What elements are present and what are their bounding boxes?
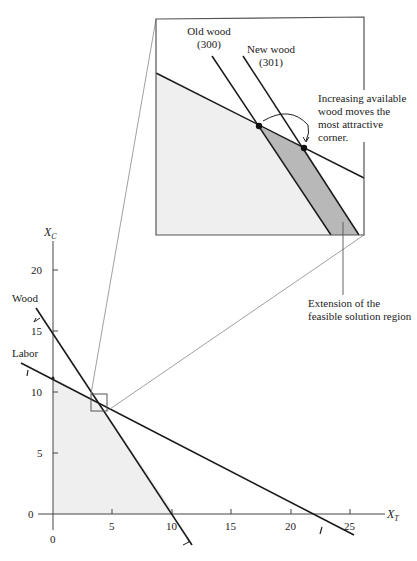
wood-label: Wood: [12, 292, 39, 304]
labor-direction-arrow-icon: [27, 370, 28, 376]
new-wood-value: (301): [259, 56, 283, 69]
x-tick-0: 0: [50, 533, 56, 545]
increase-annotation-line4: corner.: [318, 131, 348, 143]
wood-end-arrow-icon: [183, 538, 189, 545]
y-tick-0: 0: [28, 508, 34, 520]
extension-annotation-line1: Extension of the: [308, 297, 380, 309]
x-tick-15: 15: [225, 520, 237, 532]
wood-direction-arrow-icon: [34, 318, 40, 322]
old-corner-dot: [256, 123, 262, 129]
y-tick-20: 20: [31, 264, 43, 276]
new-corner-dot: [301, 145, 307, 151]
extension-annotation-line2: feasible solution region: [308, 310, 412, 322]
y-tick-10: 10: [31, 386, 43, 398]
x-tick-5: 5: [109, 520, 115, 532]
lp-graph: 0 5 10 15 20 0 5 10 15 20 25 XC XT Wood …: [0, 0, 417, 561]
y-tick-15: 15: [31, 325, 43, 337]
increase-annotation-line3: most attractive: [318, 118, 383, 130]
labor-end-arrow-icon: [320, 527, 322, 534]
labor-intercept-dot: [52, 377, 55, 380]
y-tick-5: 5: [37, 447, 43, 459]
y-axis-label: XC: [43, 225, 57, 241]
connector-line-left: [91, 19, 156, 394]
increase-annotation-line2: wood moves the: [318, 105, 390, 117]
old-wood-value: (300): [197, 38, 221, 51]
new-wood-label: New wood: [247, 43, 295, 55]
connector-line-right: [107, 235, 364, 411]
increase-annotation-line1: Increasing available: [318, 92, 406, 104]
x-tick-20: 20: [285, 520, 297, 532]
feasible-region: [53, 378, 175, 514]
labor-label: Labor: [12, 347, 39, 359]
old-wood-label: Old wood: [187, 25, 231, 37]
x-axis-label: XT: [386, 507, 399, 523]
